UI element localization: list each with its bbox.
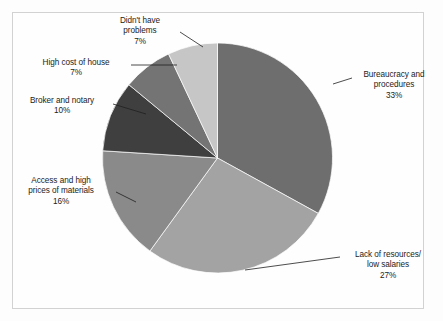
pie-label-broker-and-notary: Broker and notary 10%	[12, 96, 112, 117]
pie-label-percent: 27%	[340, 271, 436, 281]
pie-label-line2: procedures	[352, 80, 436, 90]
leader-line-bureaucracy	[333, 78, 352, 84]
pie-label-high-cost-of-house: High cost of house 7%	[22, 58, 130, 79]
pie-label-line1: Broker and notary	[12, 96, 112, 106]
chart-figure: Didn't have problems 7% High cost of hou…	[0, 0, 443, 321]
pie-label-line1: Lack of resources/	[340, 250, 436, 260]
pie-label-percent: 33%	[352, 91, 436, 101]
pie-label-line2: problems	[101, 26, 179, 36]
pie-label-percent: 7%	[101, 37, 179, 47]
pie-label-bureaucracy-and-procedures: Bureaucracy and procedures 33%	[352, 70, 436, 101]
pie-label-lack-of-resources-low-salaries: Lack of resources/ low salaries 27%	[340, 250, 436, 281]
pie-label-didnt-have-problems: Didn't have problems 7%	[101, 16, 179, 47]
pie-label-line2: low salaries	[340, 260, 436, 270]
pie-label-percent: 16%	[8, 197, 114, 207]
pie-label-percent: 7%	[22, 68, 130, 78]
pie-label-line1: High cost of house	[22, 58, 130, 68]
leader-line-didnt-have-problems	[180, 32, 203, 47]
pie-label-line2: prices of materials	[8, 186, 114, 196]
pie-slice-group	[103, 43, 333, 273]
pie-label-access-and-high-prices-of-materials: Access and high prices of materials 16%	[8, 176, 114, 207]
pie-label-percent: 10%	[12, 106, 112, 116]
pie-label-line1: Access and high	[8, 176, 114, 186]
pie-label-line1: Didn't have	[101, 16, 179, 26]
pie-label-line1: Bureaucracy and	[352, 70, 436, 80]
